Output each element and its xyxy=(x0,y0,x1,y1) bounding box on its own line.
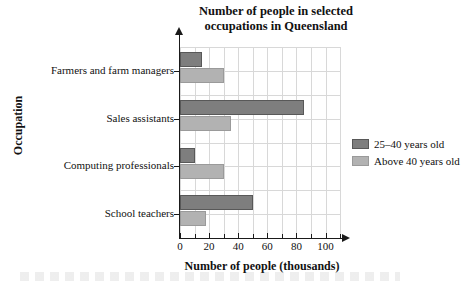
legend-entry: Above 40 years old xyxy=(352,153,460,169)
legend-swatch-icon xyxy=(352,139,369,149)
x-axis-tick xyxy=(296,233,297,239)
x-axis-tick xyxy=(267,233,268,239)
y-axis-category-label: School teachers xyxy=(105,207,174,219)
y-axis-tick xyxy=(174,166,180,167)
y-axis-arrow xyxy=(175,27,183,35)
x-axis-tick-label: 20 xyxy=(194,240,224,252)
legend-entry: 25–40 years old xyxy=(352,136,460,152)
x-axis-tick-label: 60 xyxy=(252,240,282,252)
x-axis-tick xyxy=(238,233,239,239)
x-axis-tick-minor xyxy=(282,234,283,238)
legend-label: 25–40 years old xyxy=(374,138,444,150)
gridline-horizontal xyxy=(180,95,341,96)
x-axis-tick xyxy=(326,233,327,239)
gridline-horizontal xyxy=(180,190,341,191)
bar xyxy=(180,195,253,210)
bar xyxy=(180,100,304,115)
x-axis-tick-minor xyxy=(195,234,196,238)
x-axis-tick-label: 40 xyxy=(223,240,253,252)
chart-title: Number of people in selected occupations… xyxy=(186,4,366,34)
bar-chart: Number of people in selected occupations… xyxy=(0,0,474,285)
bar xyxy=(180,211,206,226)
legend-swatch-icon xyxy=(352,156,369,166)
bar xyxy=(180,164,224,179)
y-axis-tick xyxy=(174,214,180,215)
legend-label: Above 40 years old xyxy=(374,155,460,167)
x-axis-tick-minor xyxy=(224,234,225,238)
x-axis-line xyxy=(180,238,344,239)
legend: 25–40 years old Above 40 years old xyxy=(352,136,460,170)
x-axis-tick-minor xyxy=(311,234,312,238)
y-axis-category-label: Computing professionals xyxy=(64,159,174,171)
bar xyxy=(180,52,202,67)
x-axis-tick-minor xyxy=(340,234,341,238)
x-axis-tick-label: 0 xyxy=(165,240,195,252)
x-axis-tick-minor xyxy=(253,234,254,238)
x-axis-tick xyxy=(180,233,181,239)
y-axis-line xyxy=(179,33,180,239)
x-axis-arrow xyxy=(342,234,350,242)
chart-title-line-1: Number of people in selected xyxy=(186,4,366,19)
plot-area xyxy=(180,47,341,238)
y-axis-title: Occupation xyxy=(11,66,26,186)
bar xyxy=(180,148,195,163)
y-axis-category-label: Farmers and farm managers xyxy=(51,64,174,76)
scan-artifact xyxy=(20,272,400,281)
x-axis-tick-label: 80 xyxy=(281,240,311,252)
x-axis-tick xyxy=(209,233,210,239)
bar xyxy=(180,68,224,83)
x-axis-tick-label: 100 xyxy=(311,240,341,252)
y-axis-category-label: Sales assistants xyxy=(106,112,174,124)
bar xyxy=(180,116,231,131)
chart-title-line-2: occupations in Queensland xyxy=(186,19,366,34)
y-axis-tick xyxy=(174,119,180,120)
gridline-horizontal xyxy=(180,143,341,144)
gridline-horizontal xyxy=(180,47,341,48)
y-axis-tick xyxy=(174,71,180,72)
